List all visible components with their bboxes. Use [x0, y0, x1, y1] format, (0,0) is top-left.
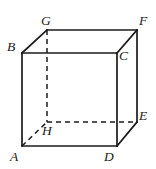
vertex-label-c: C — [119, 49, 128, 63]
vertex-label-e: E — [139, 109, 147, 123]
vertex-label-a: A — [10, 150, 18, 164]
vertex-label-h: H — [42, 124, 52, 138]
vertex-label-f: F — [139, 14, 147, 28]
vertex-label-b: B — [7, 40, 15, 54]
vertex-label-g: G — [41, 14, 51, 28]
edge-B-G — [22, 30, 47, 53]
edge-D-E — [117, 122, 137, 146]
vertex-label-d: D — [104, 150, 114, 164]
cube-svg — [0, 0, 156, 169]
cube-figure: ABCDEFGH — [0, 0, 156, 169]
